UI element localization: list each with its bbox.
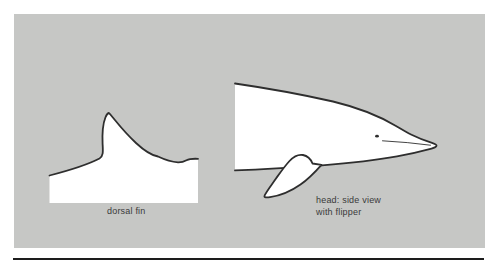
head-side-view-label: head: side view with flipper	[316, 195, 381, 218]
head-label-line1: head: side view	[316, 195, 381, 207]
bottom-rule-divider	[13, 258, 484, 260]
head-label-line2: with flipper	[316, 207, 381, 219]
diagram-page: dorsal fin head: side view with flipper	[0, 0, 499, 268]
eye-dot	[375, 135, 379, 138]
dolphin-anatomy-figure	[0, 0, 499, 268]
dorsal-fin-shape	[50, 113, 199, 203]
head-shape	[235, 84, 437, 171]
dorsal-fin-label: dorsal fin	[107, 206, 146, 218]
